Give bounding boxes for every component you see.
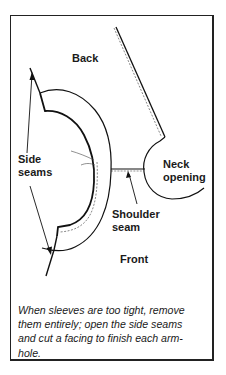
- figure-caption: When sleeves are too tight, remove them …: [18, 303, 214, 360]
- center-back-edge: [114, 27, 165, 137]
- label-back: Back: [72, 52, 98, 65]
- label-neck-opening: Neck opening: [163, 158, 206, 184]
- label-front: Front: [120, 253, 148, 266]
- shoulder-seam-pointer: [126, 171, 137, 204]
- label-side-seams: Side seams: [18, 153, 52, 179]
- side-seam-front: [46, 236, 57, 276]
- label-shoulder-seam: Shoulder seam: [112, 208, 160, 234]
- shoulder-seam-line: [111, 169, 145, 171]
